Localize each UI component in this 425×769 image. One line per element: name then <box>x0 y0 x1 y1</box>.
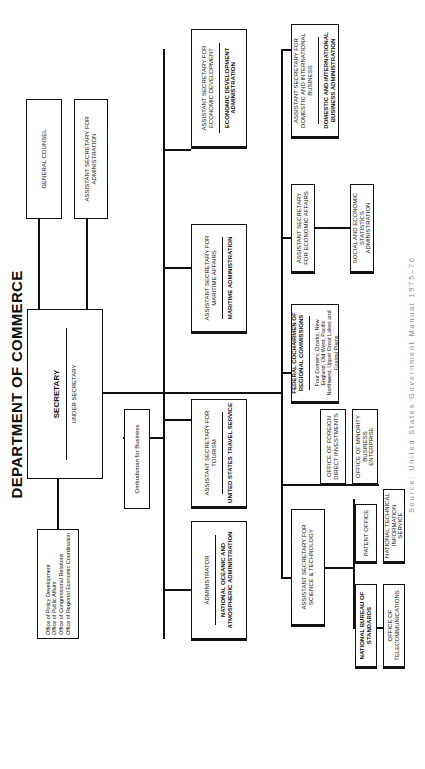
patent-box: PATENT OFFICE <box>355 504 377 564</box>
domestic-intl-head-label: ASSISTANT SECRETARY FOR DOMESTIC AND INT… <box>293 25 314 136</box>
divider <box>309 316 310 391</box>
regional-box: FEDERAL COCHAIRMEN OF REGIONAL COMMISSIO… <box>291 304 339 404</box>
seas-label: SOCIAL AND ECONOMIC STATISTICS ADMINISTR… <box>352 185 373 271</box>
divider <box>222 237 223 320</box>
connector <box>103 392 163 394</box>
connector <box>325 567 355 569</box>
tourism-agency-label: UNITED STATES TRAVEL SERVICE <box>227 400 234 506</box>
regional-detail-label: Four Corners, Ozarks, New England, Old W… <box>314 305 339 401</box>
staff-offices-list: Office of Policy Development Office of P… <box>45 533 71 635</box>
connector <box>163 392 283 394</box>
connector <box>86 219 88 309</box>
connector <box>281 577 291 579</box>
connector <box>163 149 191 151</box>
seas-box: SOCIAL AND ECONOMIC STATISTICS ADMINISTR… <box>350 184 374 274</box>
connector <box>315 227 350 229</box>
org-chart: DEPARTMENT OF COMMERCE SECRETARY UNDER S… <box>0 0 425 769</box>
econ-dev-head-label: ASSISTANT SECRETARY FOR ECONOMIC DEVELOP… <box>201 30 215 146</box>
tourism-head-label: ASSISTANT SECRETARY FOR TOURISM <box>204 400 218 506</box>
mbe-box: OFFICE OF MINORITY BUSINESS ENTERPRISE <box>352 409 378 484</box>
divider <box>219 43 220 133</box>
fdi-box: OFFICE OF FOREIGN DIRECT INVESTMENTS <box>320 409 346 484</box>
maritime-box: ASSISTANT SECRETARY FOR MARITIME AFFAIRS… <box>191 224 247 334</box>
connector <box>38 219 40 309</box>
general-counsel-box: GENERAL COUNSEL <box>26 99 62 219</box>
maritime-head-label: ASSISTANT SECRETARY FOR MARITIME AFFAIRS <box>204 225 218 331</box>
main-bus <box>163 49 165 639</box>
ntis-box: NATIONAL TECHNICAL INFORMATION SERVICE <box>383 489 405 564</box>
staff-office-item: Office of Policy Development <box>45 533 52 635</box>
general-counsel-label: GENERAL COUNSEL <box>41 126 48 191</box>
lower-bus <box>281 49 283 579</box>
mbe-label: OFFICE OF MINORITY BUSINESS ENTERPRISE <box>355 410 376 483</box>
science-tech-box: ASSISTANT SECRETARY FOR SCIENCE & TECHNO… <box>291 509 325 627</box>
regional-head-label: FEDERAL COCHAIRMEN OF REGIONAL COMMISSIO… <box>291 305 305 401</box>
ntis-label: NATIONAL TECHNICAL INFORMATION SERVICE <box>384 490 405 561</box>
domestic-intl-agency-label: DOMESTIC AND INTERNATIONAL BUSINESS ADMI… <box>323 25 337 136</box>
noaa-agency-label: NATIONAL OCEANIC AND ATMOSPHERIC ADMINIS… <box>220 522 234 638</box>
connector <box>281 237 291 239</box>
econ-affairs-label: ASSISTANT SECRETARY FOR ECONOMIC AFFAIRS <box>296 185 310 271</box>
noaa-head-label: ADMINISTRATOR <box>204 552 211 607</box>
staff-office-item: Office of Public Affairs <box>51 533 58 635</box>
staff-office-item: Office of Regional Economic Coordination <box>65 533 72 635</box>
science-head-label: ASSISTANT SECRETARY FOR SCIENCE & TECHNO… <box>301 510 315 624</box>
under-secretary-label: UNDER SECRETARY <box>71 361 78 426</box>
connector <box>163 267 191 269</box>
tourism-box: ASSISTANT SECRETARY FOR TOURISM UNITED S… <box>191 399 247 509</box>
connector <box>281 372 291 374</box>
patent-label: PATENT OFFICE <box>363 507 370 559</box>
staff-office-item: Office of Congressional Relations <box>58 533 65 635</box>
connector <box>163 419 191 421</box>
asst-sec-admin-label: ASSISTANT SECRETARY FOR ADMINISTRATION <box>84 100 98 218</box>
domestic-intl-box: ASSISTANT SECRETARY FOR DOMESTIC AND INT… <box>291 24 339 139</box>
telecom-label: OFFICE OF TELECOMMUNICATIONS <box>387 585 401 666</box>
source-caption: Source: United States Government Manual … <box>408 0 415 769</box>
connector <box>163 589 191 591</box>
connector <box>281 49 283 79</box>
nbs-label: NATIONAL BUREAU OF STANDARDS <box>359 585 373 666</box>
telecom-box: OFFICE OF TELECOMMUNICATIONS <box>383 584 405 669</box>
connector <box>57 479 59 529</box>
connector <box>281 484 379 486</box>
asst-sec-admin-box: ASSISTANT SECRETARY FOR ADMINISTRATION <box>74 99 108 219</box>
divider <box>66 328 67 459</box>
econ-dev-box: ASSISTANT SECRETARY FOR ECONOMIC DEVELOP… <box>191 29 247 149</box>
ombudsman-label: Ombudsman for Business <box>134 421 141 496</box>
chart-title: DEPARTMENT OF COMMERCE <box>8 0 25 769</box>
maritime-agency-label: MARITIME ADMINISTRATION <box>227 234 234 323</box>
secretary-box: SECRETARY UNDER SECRETARY <box>27 309 103 479</box>
econ-affairs-box: ASSISTANT SECRETARY FOR ECONOMIC AFFAIRS <box>291 184 315 274</box>
staff-offices-box: Office of Policy Development Office of P… <box>37 529 79 639</box>
nbs-box: NATIONAL BUREAU OF STANDARDS <box>355 584 377 669</box>
divider <box>215 535 216 625</box>
secretary-label: SECRETARY <box>52 367 61 421</box>
econ-dev-agency-label: ECONOMIC DEVELOPMENT ADMINISTRATION <box>224 30 238 146</box>
divider <box>318 37 319 124</box>
fdi-label: OFFICE OF FOREIGN DIRECT INVESTMENTS <box>326 410 340 483</box>
ombudsman-box: Ombudsman for Business <box>124 409 150 509</box>
divider <box>222 412 223 495</box>
noaa-box: ADMINISTRATOR NATIONAL OCEANIC AND ATMOS… <box>191 521 247 641</box>
